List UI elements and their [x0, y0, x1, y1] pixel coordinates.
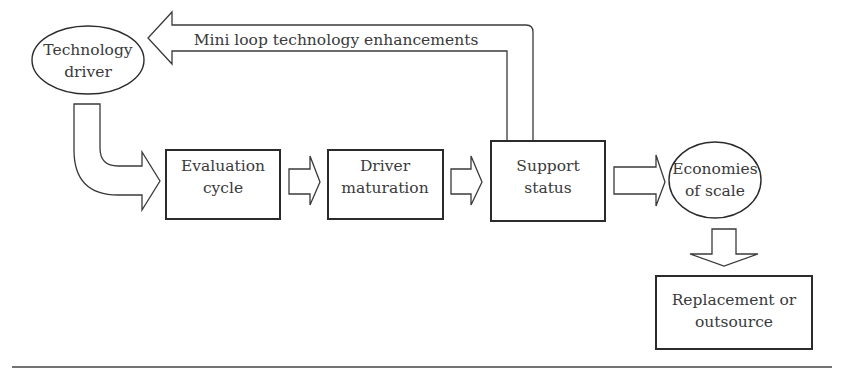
node-evaluation-cycle: Evaluation cycle — [166, 150, 280, 219]
node-label-line1: Evaluation — [181, 157, 265, 175]
node-driver-maturation: Driver maturation — [328, 150, 443, 219]
node-support-status: Support status — [491, 141, 605, 221]
node-label-line2: of scale — [685, 182, 745, 200]
node-label-line2: driver — [64, 63, 112, 81]
curved-arrow-icon — [74, 104, 160, 210]
arrow-down-icon — [690, 229, 758, 266]
loop-arrow-technology-enhancements: Mini loop technology enhancements — [148, 12, 533, 158]
node-label-line1: Economies — [672, 160, 757, 178]
arrow-right-icon — [614, 155, 665, 206]
node-label-line2: cycle — [203, 179, 243, 197]
node-label-line1: Driver — [360, 157, 411, 175]
node-label-line1: Replacement or — [672, 291, 797, 309]
flow-diagram: Mini loop technology enhancements Techno… — [0, 0, 844, 380]
node-label-line2: maturation — [341, 179, 428, 197]
arrow-right-icon — [451, 156, 482, 205]
node-replacement-or-outsource: Replacement or outsource — [656, 276, 812, 349]
loop-label: Mini loop technology enhancements — [194, 31, 479, 49]
arrow-right-icon — [289, 156, 320, 205]
node-label-line1: Support — [516, 157, 580, 175]
node-economies-of-scale: Economies of scale — [669, 142, 761, 218]
node-label-line2: status — [524, 179, 572, 197]
node-label-line1: Technology — [43, 41, 132, 59]
node-label-line2: outsource — [695, 313, 773, 331]
node-technology-driver: Technology driver — [32, 26, 144, 94]
